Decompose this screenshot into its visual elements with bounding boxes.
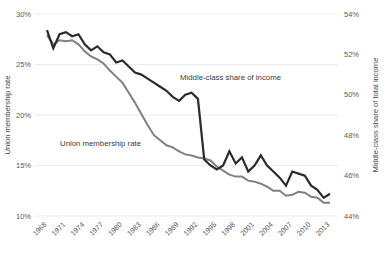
line-chart: 30%25%20%15%10% 54%52%50%48%46%44% 19681… [0,0,387,254]
right-axis-ticks: 54%52%50%48%46%44% [344,10,359,221]
left-axis-tick-label: 15% [16,161,31,170]
series-annotations: Union membership rateMiddle-class share … [60,73,281,148]
left-axis-tick-label: 30% [16,10,31,19]
left-axis-tick-label: 20% [16,111,31,120]
x-axis-tick-label: 1983 [125,220,143,238]
x-axis-tick-label: 1968 [31,220,49,238]
series-line [47,35,330,203]
right-axis-tick-label: 52% [344,50,359,59]
right-axis-tick-label: 48% [344,131,359,140]
right-axis-title: Middle-class share of total income [371,58,380,173]
x-axis-tick-label: 2001 [238,220,256,238]
right-axis-tick-label: 54% [344,10,359,19]
x-axis-tick-label: 1989 [163,220,181,238]
x-axis-tick-label: 2004 [257,220,275,238]
x-axis-tick-label: 2010 [295,220,313,238]
x-axis-tick-label: 1980 [106,220,124,238]
x-axis-tick-label: 2013 [314,220,332,238]
left-axis-ticks: 30%25%20%15%10% [16,10,31,221]
x-axis-tick-label: 1986 [144,220,162,238]
x-axis-tick-label: 1992 [182,220,200,238]
series-label: Middle-class share of income [180,73,281,82]
x-axis-tick-label: 1977 [87,220,105,238]
right-axis-tick-label: 46% [344,171,359,180]
data-series [47,30,330,203]
right-axis-tick-label: 44% [344,212,359,221]
right-axis-tick-label: 50% [344,90,359,99]
x-axis-tick-label: 1995 [201,220,219,238]
x-axis-ticks: 1968197119741977198019831986198919921995… [31,220,332,238]
x-axis-tick-label: 2007 [276,220,294,238]
chart-container: 30%25%20%15%10% 54%52%50%48%46%44% 19681… [0,0,387,254]
x-axis-tick-label: 1971 [50,220,68,238]
left-axis-title: Union membership rate [3,76,12,155]
left-axis-tick-label: 25% [16,60,31,69]
x-axis-tick-label: 1974 [68,220,86,238]
left-axis-tick-label: 10% [16,212,31,221]
gridlines [35,14,338,216]
x-axis-tick-label: 1998 [219,220,237,238]
series-label: Union membership rate [60,139,141,148]
